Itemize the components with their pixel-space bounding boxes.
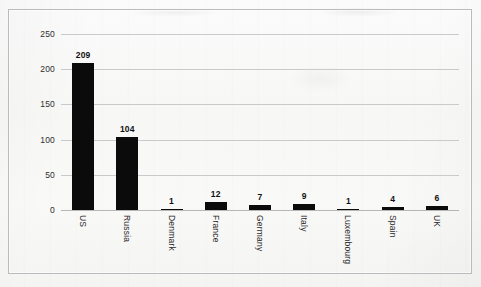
x-axis-category-label: Russia: [122, 215, 132, 242]
bar-value-label: 104: [120, 124, 135, 134]
bar-us[interactable]: [72, 63, 94, 210]
y-axis-tick-label: 0: [50, 205, 55, 215]
y-axis-tick-label: 250: [40, 29, 55, 39]
bar-russia[interactable]: [116, 137, 138, 210]
plot-area: 050100150200250 209US104Russia1Denmark12…: [61, 34, 459, 210]
bar-value-label: 7: [258, 192, 263, 202]
bar-group-us[interactable]: 209US: [72, 34, 94, 210]
bar-germany[interactable]: [249, 205, 271, 210]
x-axis-category-label: US: [78, 215, 88, 227]
bar-group-italy[interactable]: 9Italy: [293, 34, 315, 210]
x-axis-category-label: Germany: [255, 215, 265, 251]
bar-series: 209US104Russia1Denmark12France7Germany9I…: [61, 34, 459, 210]
bar-value-label: 6: [434, 193, 439, 203]
bar-value-label: 12: [211, 189, 221, 199]
bar-spain[interactable]: [382, 207, 404, 210]
gridline-0: 0: [61, 210, 459, 211]
bar-group-denmark[interactable]: 1Denmark: [161, 34, 183, 210]
bar-group-spain[interactable]: 4Spain: [382, 34, 404, 210]
scanned-page: 050100150200250 209US104Russia1Denmark12…: [0, 0, 481, 287]
x-axis-category-label: Italy: [299, 215, 309, 232]
bar-denmark[interactable]: [161, 209, 183, 211]
bar-uk[interactable]: [426, 206, 448, 210]
y-axis-tick-label: 200: [40, 64, 55, 74]
bar-italy[interactable]: [293, 204, 315, 210]
bar-group-russia[interactable]: 104Russia: [116, 34, 138, 210]
bar-value-label: 9: [302, 191, 307, 201]
x-axis-category-label: Spain: [388, 215, 398, 238]
y-axis-tick-label: 100: [40, 135, 55, 145]
y-axis-tick-label: 50: [45, 170, 55, 180]
x-axis-category-label: Denmark: [167, 215, 177, 251]
x-axis-category-label: Luxembourg: [343, 215, 353, 264]
bar-value-label: 4: [390, 194, 395, 204]
x-axis-category-label: France: [211, 215, 221, 243]
bar-group-uk[interactable]: 6UK: [426, 34, 448, 210]
chart-frame: 050100150200250 209US104Russia1Denmark12…: [8, 9, 472, 274]
bar-group-luxembourg[interactable]: 1Luxembourg: [337, 34, 359, 210]
bar-value-label: 209: [76, 50, 91, 60]
bar-value-label: 1: [346, 196, 351, 206]
bar-luxembourg[interactable]: [337, 209, 359, 211]
bar-value-label: 1: [169, 196, 174, 206]
bar-group-germany[interactable]: 7Germany: [249, 34, 271, 210]
bar-group-france[interactable]: 12France: [205, 34, 227, 210]
x-axis-category-label: UK: [432, 215, 442, 227]
y-axis-tick-label: 150: [40, 99, 55, 109]
bar-france[interactable]: [205, 202, 227, 210]
